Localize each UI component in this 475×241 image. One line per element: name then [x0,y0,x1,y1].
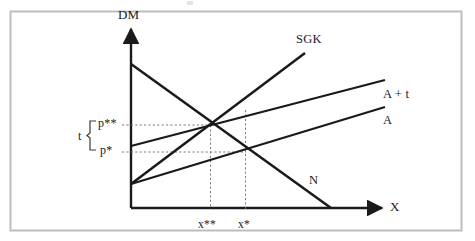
x-axis-label: X [390,200,400,213]
tax-bracket-label: t [78,130,82,142]
price-label-p-star: p* [100,144,112,156]
quantity-label-x-star: x* [238,219,250,231]
curve-label-sgk: SGK [296,33,322,46]
figure-frame [11,12,462,231]
quantity-label-x-double-star: x** [198,219,216,231]
curve-n [131,64,331,208]
curve-sgk [131,53,305,184]
curve-a [131,107,385,184]
y-axis-label: DM [118,8,139,21]
figure-container: DM X SGK A + t A N p** p* t x** x* [0,0,475,241]
curve-label-a: A [383,114,392,127]
price-label-p-double-star: p** [98,117,117,129]
curve-label-n: N [309,174,318,187]
curve-label-a-plus-t: A + t [383,88,409,101]
diagram-canvas [0,0,475,241]
tax-bracket [87,121,96,150]
